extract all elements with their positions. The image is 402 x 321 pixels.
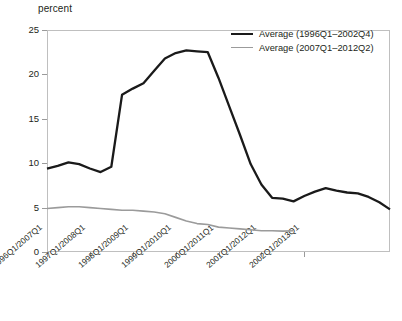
series-line-1 (47, 207, 294, 231)
legend-swatch-icon (231, 47, 253, 48)
series-line-0 (47, 50, 390, 209)
legend-swatch-icon (231, 33, 253, 35)
legend-label: Average (1996Q1–2002Q4) (259, 29, 374, 39)
legend-label: Average (2007Q1–2012Q2) (259, 43, 374, 53)
legend-item: Average (1996Q1–2002Q4) (231, 27, 374, 40)
legend: Average (1996Q1–2002Q4)Average (2007Q1–2… (231, 27, 374, 55)
chart-container: percent 2520151050 1996Q1/2007Q11997Q1/2… (0, 0, 402, 321)
legend-item: Average (2007Q1–2012Q2) (231, 41, 374, 54)
